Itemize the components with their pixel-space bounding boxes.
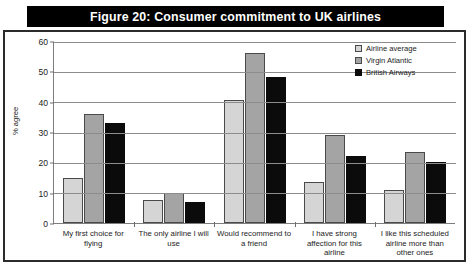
bar[interactable]: [143, 200, 163, 223]
y-axis-tick-label: 60: [38, 37, 48, 47]
gridline: [54, 133, 456, 134]
chart-legend: Airline averageVirgin AtlanticBritish Ai…: [355, 44, 417, 77]
bar[interactable]: [63, 178, 83, 224]
y-axis-tick: [50, 72, 54, 73]
x-axis-labels: My first choice for flyingThe only airli…: [53, 229, 455, 263]
bar[interactable]: [105, 123, 125, 223]
y-axis-tick: [50, 163, 54, 164]
y-axis-tick-label: 50: [38, 67, 48, 77]
legend-swatch-icon: [355, 69, 362, 76]
y-axis-tick-label: 30: [38, 128, 48, 138]
y-axis-tick-label: 20: [38, 158, 48, 168]
bar[interactable]: [346, 156, 366, 223]
bar[interactable]: [304, 182, 324, 223]
legend-item-label: Airline average: [366, 44, 417, 53]
figure-container: Figure 20: Consumer commitment to UK air…: [0, 0, 471, 268]
y-axis-title: % agree: [11, 107, 20, 135]
x-axis-tick: [375, 222, 376, 227]
bar[interactable]: [384, 190, 404, 223]
legend-item[interactable]: Virgin Atlantic: [355, 56, 417, 65]
bar[interactable]: [266, 77, 286, 223]
x-axis-category-label: Would recommend to a friend: [214, 229, 294, 263]
x-axis-tick: [134, 222, 135, 227]
y-axis-tick-label: 0: [43, 219, 48, 229]
x-axis-category-label: I like this scheduled airline more than …: [375, 229, 455, 263]
figure-title-banner: Figure 20: Consumer commitment to UK air…: [27, 6, 444, 27]
y-axis-tick: [50, 102, 54, 103]
y-axis-tick-label: 40: [38, 98, 48, 108]
legend-swatch-icon: [355, 57, 362, 64]
y-axis-tick: [50, 42, 54, 43]
y-axis-tick: [50, 133, 54, 134]
x-axis-category-label: I have strong affection for this airline: [294, 229, 374, 263]
bar[interactable]: [164, 193, 184, 223]
legend-item-label: Virgin Atlantic: [366, 56, 412, 65]
gridline: [54, 42, 456, 43]
legend-item-label: British Airways: [366, 68, 415, 77]
bar[interactable]: [325, 135, 345, 223]
gridline: [54, 193, 456, 194]
legend-item[interactable]: Airline average: [355, 44, 417, 53]
legend-swatch-icon: [355, 45, 362, 52]
page-title: Figure 20: Consumer commitment to UK air…: [90, 10, 381, 24]
y-axis-tick: [50, 224, 54, 225]
gridline: [54, 163, 456, 164]
x-axis-tick: [295, 222, 296, 227]
bar[interactable]: [185, 202, 205, 223]
x-axis-category-label: The only airline I will use: [133, 229, 213, 263]
y-axis-tick: [50, 193, 54, 194]
y-axis-tick-label: 10: [38, 189, 48, 199]
x-axis-tick: [214, 222, 215, 227]
bar[interactable]: [224, 100, 244, 223]
bar[interactable]: [245, 53, 265, 223]
gridline: [54, 102, 456, 103]
legend-item[interactable]: British Airways: [355, 68, 417, 77]
bar[interactable]: [84, 114, 104, 223]
x-axis-category-label: My first choice for flying: [53, 229, 133, 263]
